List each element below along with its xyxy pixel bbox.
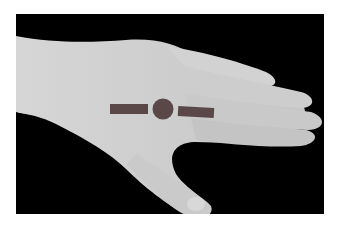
hand-photo: [16, 14, 324, 214]
marker-circle: [153, 99, 174, 120]
hand-illustration: [16, 14, 324, 214]
thumbnail: [187, 197, 205, 211]
marker-bar-right: [178, 106, 214, 118]
marker-bar-left: [110, 104, 148, 114]
